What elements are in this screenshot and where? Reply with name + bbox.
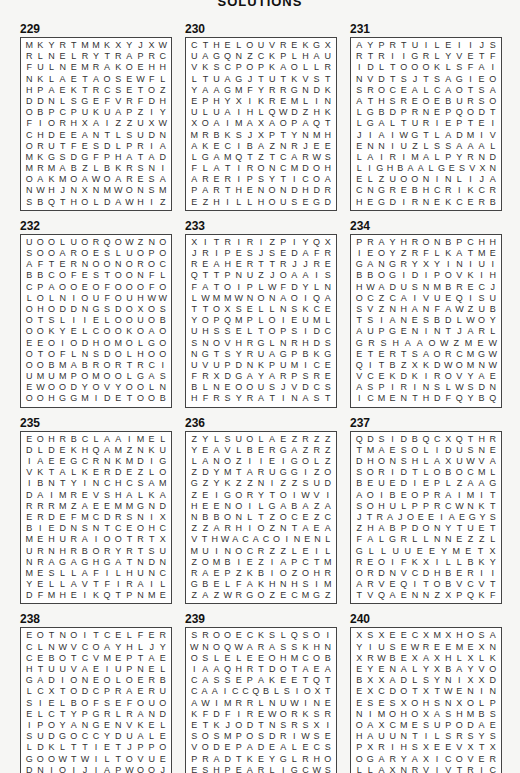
grid-letter: D <box>387 107 398 118</box>
grid-row: AFTERNOONOROC <box>24 259 168 270</box>
grid-letter: I <box>465 40 476 51</box>
grid-letter: E <box>222 653 233 664</box>
grid-letter: I <box>222 197 233 208</box>
grid-letter: Z <box>376 304 387 315</box>
grid-letter: K <box>267 62 278 73</box>
grid-letter: A <box>135 731 146 742</box>
grid-letter: M <box>476 467 487 478</box>
grid-letter: F <box>102 96 113 107</box>
grid-letter: A <box>476 478 487 489</box>
grid-letter: V <box>399 568 410 579</box>
grid-letter: W <box>57 754 68 765</box>
grid-letter: L <box>454 557 465 568</box>
grid-letter: L <box>300 62 311 73</box>
grid-letter: Q <box>311 675 322 686</box>
grid-letter: L <box>113 709 124 720</box>
grid-letter: C <box>465 467 476 478</box>
grid-letter: X <box>135 304 146 315</box>
grid-row: CLNWVCOAYHLJY <box>24 642 168 653</box>
grid-letter: Z <box>200 197 211 208</box>
grid-letter: T <box>135 546 146 557</box>
grid-letter: D <box>146 557 157 568</box>
grid-letter: O <box>102 326 113 337</box>
grid-letter: L <box>35 51 46 62</box>
grid-letter: M <box>57 490 68 501</box>
grid-letter: U <box>390 546 401 557</box>
grid-letter: V <box>289 382 300 393</box>
grid-letter: D <box>376 568 387 579</box>
grid-letter: K <box>300 304 311 315</box>
grid-letter: O <box>80 248 91 259</box>
grid-letter: R <box>256 765 267 773</box>
grid-letter: R <box>69 248 80 259</box>
grid-letter: Z <box>267 590 278 601</box>
grid-letter: A <box>476 141 487 152</box>
grid-letter: I <box>24 720 35 731</box>
grid-letter: B <box>323 653 334 664</box>
grid-letter: S <box>365 315 376 326</box>
grid-letter: U <box>113 664 124 675</box>
grid-letter: M <box>365 445 376 456</box>
grid-letter: C <box>158 51 169 62</box>
grid-letter: A <box>410 754 421 765</box>
grid-letter: R <box>387 754 398 765</box>
grid-letter: S <box>211 731 222 742</box>
grid-letter: X <box>399 698 410 709</box>
grid-letter: E <box>146 664 157 675</box>
grid-letter: I <box>421 270 432 281</box>
grid-row: GBELFAKHNHSIM <box>189 579 333 590</box>
grid-letter: N <box>234 270 245 281</box>
grid-letter: E <box>24 630 35 641</box>
grid-letter: B <box>46 653 57 664</box>
grid-letter: G <box>488 478 499 489</box>
grid-letter: C <box>365 371 376 382</box>
grid-letter: M <box>376 709 387 720</box>
grid-letter: R <box>124 579 135 590</box>
grid-letter: E <box>245 304 256 315</box>
grid-letter: S <box>189 630 200 641</box>
grid-letter: O <box>158 467 169 478</box>
grid-letter: S <box>222 326 233 337</box>
grid-letter: Z <box>311 434 322 445</box>
grid-row: VTHWACACOINENL <box>189 534 333 545</box>
grid-letter: D <box>57 523 68 534</box>
grid-letter: H <box>454 630 465 641</box>
grid-letter: J <box>146 642 157 653</box>
grid-letter: A <box>102 62 113 73</box>
grid-letter: M <box>432 630 443 641</box>
grid-letter: X <box>80 118 91 129</box>
grid-letter: H <box>300 51 311 62</box>
grid-letter: Y <box>158 107 169 118</box>
grid-row: GADIONEOLOERB <box>24 675 168 686</box>
grid-row: SOOAROESLUOPO <box>24 248 168 259</box>
grid-letter: I <box>311 96 322 107</box>
grid-letter: C <box>158 523 169 534</box>
grid-letter: E <box>24 382 35 393</box>
grid-row: NWHJNXNMWONSM <box>24 185 168 196</box>
grid-letter: P <box>245 282 256 293</box>
grid-letter: U <box>476 259 487 270</box>
grid-letter: X <box>80 185 91 196</box>
grid-letter: N <box>421 590 432 601</box>
grid-letter: E <box>463 546 474 557</box>
grid-letter: Z <box>289 434 300 445</box>
grid-letter: A <box>376 118 387 129</box>
grid-letter: I <box>300 293 311 304</box>
grid-letter: N <box>91 185 102 196</box>
grid-letter: O <box>488 664 499 675</box>
grid-letter: H <box>323 130 334 141</box>
grid-letter: N <box>365 185 376 196</box>
grid-letter: C <box>488 765 499 773</box>
grid-letter: E <box>454 534 465 545</box>
grid-letter: A <box>135 579 146 590</box>
grid-letter: S <box>476 293 487 304</box>
grid-row: AKECIBAZNRJEE <box>189 141 333 152</box>
grid-letter: X <box>421 709 432 720</box>
grid-letter: R <box>113 686 124 697</box>
grid-letter: Y <box>222 96 233 107</box>
grid-letter: R <box>399 96 410 107</box>
grid-letter: I <box>410 293 421 304</box>
grid-letter: L <box>421 445 432 456</box>
grid-letter: A <box>245 371 256 382</box>
grid-letter: O <box>354 293 365 304</box>
